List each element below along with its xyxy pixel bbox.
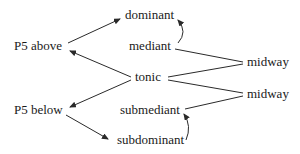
- node-p5-below: P5 below: [14, 103, 63, 117]
- arrow-p5above-to-dominant: [68, 19, 120, 43]
- line-tonic-to-midway-lower: [168, 80, 243, 93]
- node-submediant: submediant: [120, 103, 180, 117]
- curved-arrow-mediant-to-dominant: [178, 20, 183, 43]
- node-tonic: tonic: [135, 70, 161, 84]
- curved-arrow-subdominant-to-submediant: [184, 114, 189, 140]
- node-subdominant: subdominant: [117, 133, 184, 147]
- node-midway-lower: midway: [247, 87, 289, 101]
- arrow-p5below-to-subdominant: [66, 115, 108, 139]
- node-dominant: dominant: [125, 8, 174, 22]
- line-tonic-to-midway-upper: [168, 64, 243, 77]
- arrow-tonic-to-p5above: [70, 51, 131, 77]
- scale-degree-diagram: dominant mediant tonic submediant subdom…: [0, 0, 300, 154]
- node-mediant: mediant: [129, 39, 171, 53]
- line-mediant-to-midway: [175, 49, 243, 62]
- node-midway-upper: midway: [247, 55, 289, 69]
- line-submediant-to-midway: [185, 96, 243, 109]
- node-p5-above: P5 above: [14, 39, 62, 53]
